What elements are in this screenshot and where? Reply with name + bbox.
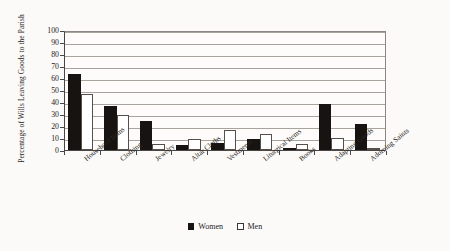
y-axis-tick-label: 40: [19, 99, 59, 107]
filled-square-swatch: [188, 223, 195, 230]
bar-group: [65, 32, 101, 150]
y-axis-tick-label: 30: [19, 111, 59, 119]
y-axis-tick-label: 100: [19, 27, 59, 35]
bar-men: [81, 94, 94, 150]
legend-label: Women: [198, 222, 223, 231]
y-axis-tick-label: 20: [19, 123, 59, 131]
chart-legend: WomenMen: [0, 222, 450, 231]
legend-item-men: Men: [237, 222, 262, 231]
bar-women: [68, 74, 81, 150]
y-axis-tick-label: 60: [19, 75, 59, 83]
y-axis-tick-label: 10: [19, 135, 59, 143]
y-axis-tick-label: 0: [19, 147, 59, 155]
bar-group: [172, 32, 208, 150]
bar-women: [283, 148, 296, 150]
bar-group: [137, 32, 173, 150]
bar-chart-figure: Percentage of Wills Leaving Goods to the…: [0, 0, 450, 251]
y-axis-tick-label: 80: [19, 51, 59, 59]
x-axis-tick-mark: [64, 151, 65, 155]
bar-women: [319, 104, 332, 150]
legend-label: Men: [248, 222, 263, 231]
y-axis-tick-label: 70: [19, 63, 59, 71]
bar-group: [208, 32, 244, 150]
y-axis-tick-label: 90: [19, 39, 59, 47]
legend-item-women: Women: [188, 222, 223, 231]
bar-group: [315, 32, 351, 150]
y-axis-tick-label: 50: [19, 87, 59, 95]
bar-women: [176, 145, 189, 150]
bar-group: [244, 32, 280, 150]
outlined-square-swatch: [237, 223, 244, 230]
